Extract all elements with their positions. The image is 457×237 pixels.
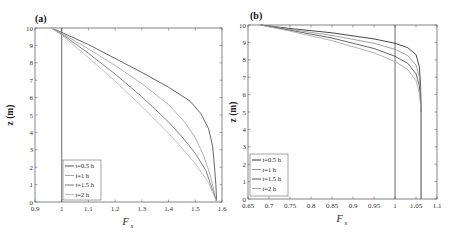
legend-label: t=0.5 h xyxy=(76,162,95,169)
y-tick-label: 9 xyxy=(243,39,247,47)
y-tick-label: 1 xyxy=(30,181,34,189)
x-tick-label: 1.1 xyxy=(84,205,93,213)
legend-label: t=2 h xyxy=(76,191,90,198)
x-axis-title: F xyxy=(335,213,343,224)
y-tick-label: 6 xyxy=(243,91,247,99)
y-tick-label: 0 xyxy=(243,196,247,204)
legend: t=0.5 ht=1 ht=1.5 ht=2 h xyxy=(250,154,288,196)
x-tick-label: 1.1 xyxy=(433,202,442,210)
y-tick-label: 8 xyxy=(243,56,247,64)
y-tick-label: 2 xyxy=(30,164,34,172)
x-tick-label: 1.3 xyxy=(137,205,146,213)
panel-a: 0.911.11.21.31.41.51.6012345678910(a)z (… xyxy=(5,13,227,230)
x-tick-label: 0.9 xyxy=(349,202,358,210)
x-tick-label: 0.85 xyxy=(326,202,339,210)
x-tick-label: 0.75 xyxy=(284,202,297,210)
y-tick-label: 6 xyxy=(30,94,34,102)
panel-b: 0.650.70.750.80.850.90.9511.051.10123456… xyxy=(228,10,442,227)
y-tick-label: 9 xyxy=(30,42,34,50)
y-tick-label: 4 xyxy=(30,129,34,137)
y-tick-label: 3 xyxy=(243,143,247,151)
y-tick-label: 8 xyxy=(30,59,34,67)
y-tick-label: 7 xyxy=(243,74,247,82)
series-line-t-1-5-h xyxy=(261,25,421,112)
y-tick-label: 10 xyxy=(26,25,34,33)
series-line-t-2-h xyxy=(261,25,421,115)
legend-label: t=1 h xyxy=(263,166,277,173)
legend-label: t=1.5 h xyxy=(263,175,282,182)
y-tick-label: 5 xyxy=(243,109,247,117)
y-tick-label: 10 xyxy=(239,22,247,30)
x-tick-label: 1.2 xyxy=(111,205,120,213)
y-tick-label: 1 xyxy=(243,178,247,186)
y-tick-label: 4 xyxy=(243,126,247,134)
x-axis-title-subscript: s xyxy=(131,222,134,230)
x-tick-label: 1.6 xyxy=(218,205,227,213)
y-tick-label: 3 xyxy=(30,146,34,154)
y-tick-label: 5 xyxy=(30,112,34,120)
panel-label: (b) xyxy=(250,10,262,22)
legend: t=0.5 ht=1 ht=1.5 ht=2 h xyxy=(63,160,101,200)
x-tick-label: 0.8 xyxy=(307,202,316,210)
figure: 0.911.11.21.31.41.51.6012345678910(a)z (… xyxy=(0,0,457,237)
x-tick-label: 1 xyxy=(393,202,397,210)
y-tick-label: 7 xyxy=(30,77,34,85)
y-axis-title: z (m) xyxy=(228,102,239,123)
legend-label: t=0.5 h xyxy=(263,156,282,163)
panel-label: (a) xyxy=(35,13,47,25)
x-tick-label: 1 xyxy=(60,205,64,213)
x-tick-label: 0.95 xyxy=(368,202,381,210)
x-axis-title: F xyxy=(121,216,129,227)
y-tick-label: 0 xyxy=(30,199,34,207)
y-tick-label: 2 xyxy=(243,161,247,169)
series-line-t-1-h xyxy=(261,25,421,112)
x-tick-label: 1.4 xyxy=(164,205,173,213)
x-axis-title-subscript: s xyxy=(345,219,348,227)
legend-label: t=1 h xyxy=(76,172,90,179)
legend-label: t=1.5 h xyxy=(76,181,95,188)
x-tick-label: 1.05 xyxy=(410,202,423,210)
x-tick-label: 1.5 xyxy=(191,205,200,213)
legend-label: t=2 h xyxy=(263,185,277,192)
x-tick-label: 0.7 xyxy=(265,202,274,210)
y-axis-title: z (m) xyxy=(5,105,16,126)
